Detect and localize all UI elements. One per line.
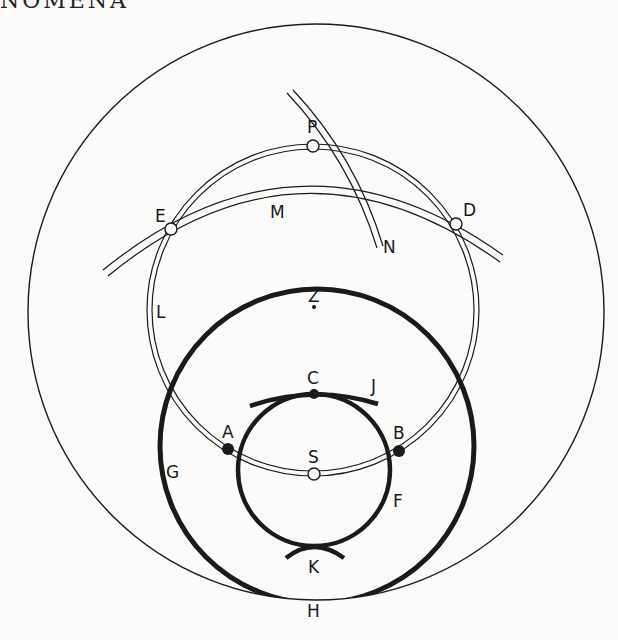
- point-S-marker: [308, 468, 320, 480]
- label-P: P: [307, 117, 317, 137]
- label-K: K: [308, 557, 320, 577]
- label-F: F: [393, 491, 403, 511]
- double-arc-EMD: [103, 186, 503, 276]
- label-G: G: [166, 462, 179, 482]
- celestial-diagram: P E M D N L Z C J A B S G F K H: [0, 0, 618, 640]
- label-H: H: [307, 601, 320, 621]
- label-M: M: [270, 202, 285, 222]
- label-A: A: [222, 422, 234, 442]
- label-N: N: [383, 237, 396, 257]
- label-E: E: [155, 206, 166, 226]
- point-E-marker: [165, 223, 177, 235]
- label-L: L: [156, 302, 166, 322]
- label-C: C: [307, 368, 319, 388]
- point-C-marker: [309, 389, 319, 399]
- label-S: S: [308, 447, 319, 467]
- point-B-marker: [393, 445, 405, 457]
- point-A-marker: [222, 443, 234, 455]
- point-P-marker: [307, 140, 319, 152]
- label-Z: Z: [308, 286, 320, 306]
- outer-circle: [28, 24, 604, 600]
- label-B: B: [393, 423, 405, 443]
- label-D: D: [463, 200, 476, 220]
- point-D-marker: [450, 218, 462, 230]
- label-J: J: [370, 376, 376, 396]
- thick-circle-G: [160, 289, 474, 603]
- double-arc-PN: [287, 90, 383, 248]
- figure-page: NOMENA: [0, 0, 618, 640]
